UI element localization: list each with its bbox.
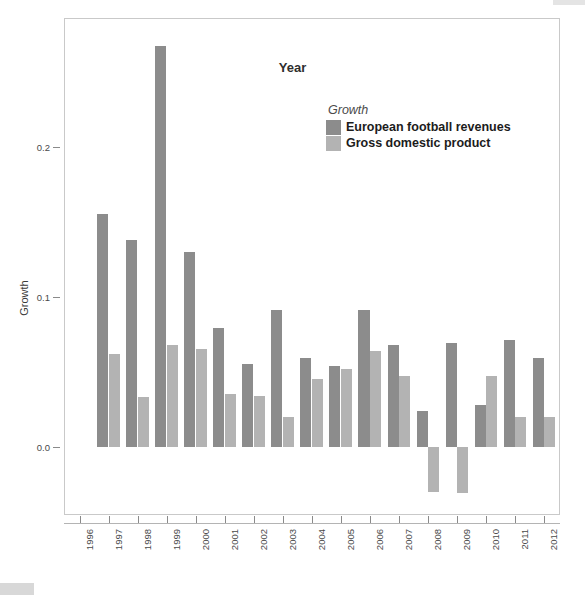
legend-item-european-football-revenues: European football revenues <box>326 119 536 135</box>
x-tick-mark-2007 <box>399 516 400 523</box>
bar-2012-series-2 <box>544 417 555 447</box>
x-axis-title: Year <box>0 60 585 75</box>
x-tick-label-2004: 2004 <box>316 529 327 550</box>
y-tick-mark-0.2 <box>53 147 60 148</box>
x-tick-label-2010: 2010 <box>490 529 501 550</box>
bar-2009-series-1 <box>446 343 457 447</box>
y-axis-title: Growth <box>18 280 30 315</box>
x-tick-mark-2000 <box>196 516 197 523</box>
bar-1999-series-2 <box>167 345 178 447</box>
y-axis: 0.00.10.2 <box>0 0 64 595</box>
x-tick-label-1998: 1998 <box>142 529 153 550</box>
x-tick-label-2008: 2008 <box>432 529 443 550</box>
x-tick-label-2007: 2007 <box>403 529 414 550</box>
x-tick-mark-1996 <box>80 516 81 523</box>
bar-2002-series-2 <box>254 396 265 447</box>
x-tick-label-2012: 2012 <box>548 529 559 550</box>
x-tick-label-1999: 1999 <box>171 529 182 550</box>
bar-2006-series-1 <box>358 310 369 447</box>
x-tick-label-2003: 2003 <box>287 529 298 550</box>
bar-1997-series-2 <box>109 354 120 447</box>
legend-title: Growth <box>326 103 536 117</box>
bar-2011-series-1 <box>504 340 515 447</box>
bar-1998-series-1 <box>126 240 137 447</box>
bar-2005-series-2 <box>341 369 352 447</box>
x-tick-mark-1998 <box>138 516 139 523</box>
y-tick-mark-0.0 <box>53 447 60 448</box>
x-tick-mark-2004 <box>312 516 313 523</box>
x-axis-line <box>64 523 560 524</box>
scan-edge-artifact-top <box>553 0 585 5</box>
legend-item-gross-domestic-product: Gross domestic product <box>326 135 536 151</box>
bar-1999-series-1 <box>155 46 166 447</box>
x-tick-label-1996: 1996 <box>84 529 95 550</box>
bar-2003-series-1 <box>271 310 282 447</box>
bar-2007-series-2 <box>399 376 410 447</box>
legend-swatch-european-football-revenues <box>326 120 341 135</box>
x-tick-mark-2005 <box>341 516 342 523</box>
bar-2000-series-1 <box>184 252 195 447</box>
y-tick-label-0.0: 0.0 <box>37 441 50 452</box>
chart-legend: Growth European football revenues Gross … <box>326 103 536 151</box>
bar-2000-series-2 <box>196 349 207 447</box>
x-tick-mark-2001 <box>225 516 226 523</box>
x-tick-mark-1997 <box>109 516 110 523</box>
x-axis: 1996199719981999200020012002200320042005… <box>0 515 585 595</box>
bar-2010-series-2 <box>486 376 497 447</box>
x-tick-label-2001: 2001 <box>229 529 240 550</box>
legend-swatch-gross-domestic-product <box>326 136 341 151</box>
y-tick-label-0.2: 0.2 <box>37 141 50 152</box>
legend-label-european-football-revenues: European football revenues <box>346 120 511 134</box>
x-tick-mark-2002 <box>254 516 255 523</box>
bar-2004-series-1 <box>300 358 311 447</box>
x-tick-label-2011: 2011 <box>519 529 530 549</box>
bar-2004-series-2 <box>312 379 323 447</box>
x-tick-mark-2008 <box>428 516 429 523</box>
chart-figure: 0.00.10.2 Growth 19961997199819992000200… <box>0 0 585 595</box>
x-tick-mark-1999 <box>167 516 168 523</box>
legend-label-gross-domestic-product: Gross domestic product <box>346 136 490 150</box>
bar-2012-series-1 <box>533 358 544 447</box>
x-tick-label-1997: 1997 <box>113 529 124 550</box>
bar-2008-series-2 <box>428 447 439 492</box>
x-tick-mark-2003 <box>283 516 284 523</box>
x-tick-label-2006: 2006 <box>374 529 385 550</box>
bar-2007-series-1 <box>388 345 399 447</box>
bar-2010-series-1 <box>475 405 486 447</box>
x-tick-label-2000: 2000 <box>200 529 211 550</box>
bar-2008-series-1 <box>417 411 428 447</box>
x-tick-label-2009: 2009 <box>461 529 472 550</box>
y-tick-label-0.1: 0.1 <box>37 291 50 302</box>
bar-2001-series-2 <box>225 394 236 447</box>
bar-2003-series-2 <box>283 417 294 447</box>
x-tick-mark-2012 <box>544 516 545 523</box>
x-tick-mark-2009 <box>457 516 458 523</box>
x-tick-label-2002: 2002 <box>258 529 269 550</box>
x-tick-mark-2010 <box>486 516 487 523</box>
bar-1997-series-1 <box>97 214 108 447</box>
bar-2002-series-1 <box>242 364 253 447</box>
bar-1998-series-2 <box>138 397 149 447</box>
bar-2005-series-1 <box>329 366 340 447</box>
bar-2011-series-2 <box>515 417 526 447</box>
y-tick-mark-0.1 <box>53 297 60 298</box>
x-tick-mark-2006 <box>370 516 371 523</box>
x-tick-label-2005: 2005 <box>345 529 356 550</box>
bar-2001-series-1 <box>213 328 224 447</box>
x-tick-mark-2011 <box>515 516 516 523</box>
bar-2009-series-2 <box>457 447 468 494</box>
bar-2006-series-2 <box>370 351 381 447</box>
plot-area <box>65 19 559 514</box>
